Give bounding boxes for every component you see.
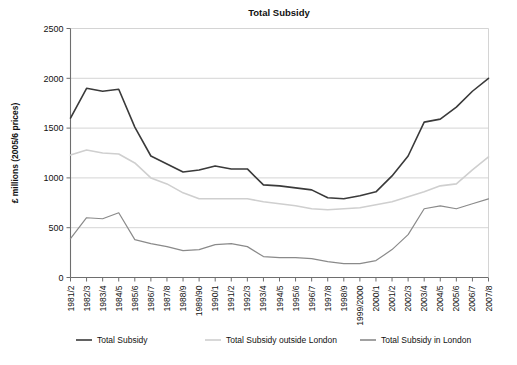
y-tick-label: 500 <box>48 223 63 233</box>
x-axis-label: 1996/7 <box>307 285 317 311</box>
total-subsidy-line-chart: Total Subsidy £ millions (2005/6 prices)… <box>0 0 517 365</box>
x-axis-label: 1998/9 <box>339 285 349 311</box>
y-tick-label: 1000 <box>43 173 63 183</box>
x-axis-label: 1981/2 <box>66 285 76 311</box>
y-axis-ticks: 05001000150020002500 <box>43 24 70 283</box>
data-series-layer <box>71 78 489 263</box>
x-axis-label: 1986/7 <box>146 285 156 311</box>
x-axis-label: 1999/2000 <box>355 285 365 325</box>
legend-label: Total Subsidy outside London <box>226 335 337 345</box>
series-line <box>71 199 489 264</box>
legend-label: Total Subsidy <box>97 335 148 345</box>
chart-title: Total Subsidy <box>248 7 310 18</box>
series-line <box>71 78 489 199</box>
x-axis-label: 1988/9 <box>178 285 188 311</box>
y-tick-label: 2500 <box>43 24 63 34</box>
x-axis-label: 1983/4 <box>98 285 108 311</box>
chart-legend: Total SubsidyTotal Subsidy outside Londo… <box>76 335 472 345</box>
y-tick-label: 1500 <box>43 123 63 133</box>
chart-container: Total Subsidy £ millions (2005/6 prices)… <box>0 0 517 365</box>
x-axis-label: 1985/6 <box>130 285 140 311</box>
x-axis-label: 2001/2 <box>387 285 397 311</box>
x-axis-label: 1987/8 <box>162 285 172 311</box>
x-axis-label: 1992/3 <box>242 285 252 311</box>
series-line <box>71 150 489 210</box>
x-axis-label: 2007/8 <box>484 285 494 311</box>
y-tick-label: 0 <box>58 273 63 283</box>
y-tick-label: 2000 <box>43 74 63 84</box>
x-axis-label: 2002/3 <box>403 285 413 311</box>
gridlines <box>71 29 489 278</box>
x-axis-label: 1993/4 <box>258 285 268 311</box>
x-axis-label: 2003/4 <box>419 285 429 311</box>
x-axis-label: 1994/5 <box>275 285 285 311</box>
x-axis-label: 1991/2 <box>226 285 236 311</box>
x-axis-label: 1984/5 <box>114 285 124 311</box>
x-axis-label: 1995/6 <box>291 285 301 311</box>
x-axis-label: 1989/90 <box>194 285 204 316</box>
x-axis-label: 2006/7 <box>467 285 477 311</box>
x-axis-label: 1990/1 <box>210 285 220 311</box>
x-axis-label: 2004/5 <box>435 285 445 311</box>
y-axis-label: £ millions (2005/6 prices) <box>10 103 20 204</box>
x-axis-labels: 1981/21982/31983/41984/51985/61986/71987… <box>66 285 494 325</box>
legend-label: Total Subsidy in London <box>381 335 472 345</box>
x-axis-label: 2000/1 <box>371 285 381 311</box>
x-axis-label: 1982/3 <box>82 285 92 311</box>
x-axis-label: 2005/6 <box>451 285 461 311</box>
x-axis-ticks <box>71 278 489 282</box>
x-axis-label: 1997/8 <box>323 285 333 311</box>
